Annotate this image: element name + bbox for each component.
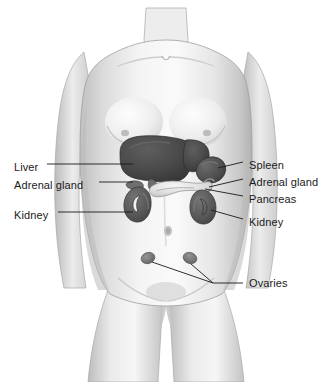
liver-organ <box>120 136 193 182</box>
anatomy-figure: Liver Adrenal gland Kidney Spleen Adrena… <box>0 0 332 382</box>
navel-inner <box>166 228 170 234</box>
label-ovaries: Ovaries <box>249 278 288 289</box>
label-spleen: Spleen <box>249 160 284 171</box>
left-nipple <box>121 130 129 136</box>
label-pancreas: Pancreas <box>249 194 296 205</box>
right-nipple <box>203 130 211 136</box>
pubic-shadow <box>146 282 186 302</box>
label-kidney-left: Kidney <box>14 210 48 221</box>
label-adrenal-gland-left: Adrenal gland <box>14 180 83 191</box>
label-adrenal-gland-right: Adrenal gland <box>249 177 318 188</box>
label-liver: Liver <box>14 162 38 173</box>
torso-illustration <box>0 0 332 382</box>
label-kidney-right: Kidney <box>249 217 283 228</box>
